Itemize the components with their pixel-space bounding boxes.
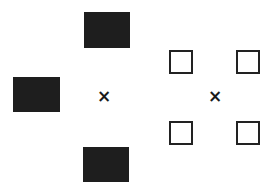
outlined-square-bottom-right: [236, 121, 260, 145]
filled-square-left: [13, 77, 60, 112]
outlined-square-bottom-left: [169, 121, 193, 145]
outlined-square-top-left: [169, 50, 193, 74]
center-x-marker-left: ×: [97, 88, 111, 105]
center-x-marker-right: ×: [208, 88, 222, 105]
outlined-square-top-right: [236, 50, 260, 74]
filled-square-top: [84, 12, 130, 48]
filled-square-bottom: [83, 147, 129, 182]
